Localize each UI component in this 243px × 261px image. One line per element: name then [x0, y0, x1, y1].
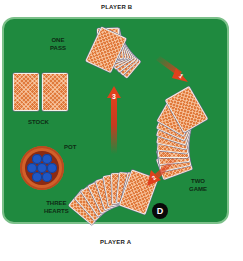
- player-b-hand[interactable]: [78, 27, 158, 87]
- player-b-bid-label: ONE PASS: [50, 36, 66, 52]
- stock-label: STOCK: [28, 118, 49, 126]
- player-a-bid-line2: HEARTS: [44, 207, 69, 215]
- player-c-bid-line1: TWO: [189, 177, 207, 185]
- player-c-bid-line2: GAME: [189, 185, 207, 193]
- player-a-bid-label: THREE HEARTS: [44, 199, 69, 215]
- stock-card-2[interactable]: [42, 73, 68, 111]
- chip: [32, 172, 42, 182]
- stock-card-1[interactable]: [13, 73, 39, 111]
- pot: [20, 146, 64, 190]
- player-b-bid-line1: ONE: [50, 36, 66, 44]
- player-a-label: PLAYER A: [100, 239, 131, 245]
- arrow-1: 1: [154, 56, 190, 86]
- player-c-hand[interactable]: [168, 88, 228, 168]
- player-b-bid-line2: PASS: [50, 44, 66, 52]
- player-b-label: PLAYER B: [101, 4, 132, 10]
- pot-label: POT: [64, 143, 76, 151]
- arrow-3-number: 3: [112, 93, 116, 100]
- arrow-2: 2: [145, 158, 179, 188]
- dealer-button: D: [152, 203, 168, 219]
- player-a-bid-line1: THREE: [44, 199, 69, 207]
- player-c-bid-label: TWO GAME: [189, 177, 207, 193]
- pot-inner: [25, 151, 59, 185]
- arrow-3: 3: [104, 84, 124, 154]
- chip: [42, 172, 52, 182]
